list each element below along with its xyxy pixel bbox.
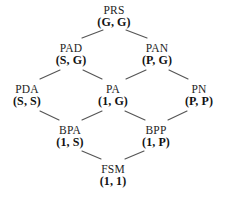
edge-pan-pa — [126, 70, 146, 79]
edge-pda-bpa — [40, 111, 59, 120]
edge-pad-pa — [83, 70, 102, 79]
node-pad: PAD(S, G) — [56, 42, 87, 67]
node-pair-bpp: (1, P) — [142, 136, 170, 149]
edge-pad-pda — [40, 70, 60, 79]
node-pan: PAN(P, G) — [142, 42, 172, 67]
node-pair-pan: (P, G) — [142, 54, 172, 67]
lattice-diagram: PRS(G, G)PAD(S, G)PAN(P, G)PDA(S, S)PA(1… — [0, 0, 227, 198]
edge-pa-bpa — [82, 111, 102, 120]
node-pair-pn: (P, P) — [185, 95, 213, 108]
edge-prs-pan — [126, 30, 147, 38]
node-pair-prs: (G, G) — [97, 16, 130, 29]
node-prs: PRS(G, G) — [97, 4, 130, 29]
node-bpa: BPA(1, S) — [56, 124, 83, 149]
edge-pan-pn — [169, 70, 188, 79]
edge-bpp-fsm — [125, 151, 144, 159]
edge-pn-bpp — [168, 111, 187, 120]
edge-pa-bpp — [125, 111, 145, 120]
node-pair-bpa: (1, S) — [56, 136, 83, 149]
node-pda: PDA(S, S) — [13, 83, 41, 108]
edge-bpa-fsm — [82, 151, 101, 159]
node-pair-fsm: (1, 1) — [100, 175, 127, 188]
node-pair-pa: (1, G) — [98, 95, 128, 108]
node-pn: PN(P, P) — [185, 83, 213, 108]
edge-prs-pad — [82, 30, 103, 38]
node-pa: PA(1, G) — [98, 83, 128, 108]
node-bpp: BPP(1, P) — [142, 124, 170, 149]
node-pair-pad: (S, G) — [56, 54, 87, 67]
node-pair-pda: (S, S) — [13, 95, 41, 108]
node-fsm: FSM(1, 1) — [100, 163, 127, 188]
